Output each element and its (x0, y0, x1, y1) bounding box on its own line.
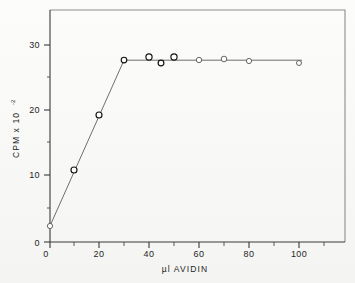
data-point-30 (121, 57, 127, 63)
data-point-80 (246, 58, 251, 63)
y-tick-label-20: 20 (29, 105, 40, 115)
data-point-0 (47, 223, 52, 228)
data-fit-line (50, 60, 302, 226)
x-tick-label-80: 80 (244, 249, 255, 259)
x-tick-label-20: 20 (94, 249, 105, 259)
y-tick-label-0: 0 (35, 238, 40, 248)
data-point-70 (221, 56, 227, 62)
data-point-100 (297, 61, 302, 66)
x-tick-label-40: 40 (144, 249, 155, 259)
data-point-20 (96, 112, 102, 118)
data-point-60 (196, 57, 201, 62)
data-point-10 (71, 167, 77, 173)
y-axis (44, 10, 50, 242)
x-tick-label-0: 0 (43, 249, 48, 259)
data-point-45 (158, 60, 164, 66)
y-axis-title-exponent: -2 (10, 99, 16, 105)
data-point-50 (171, 54, 177, 60)
x-axis-title: µl AVIDIN (162, 264, 208, 274)
data-point-markers (47, 54, 301, 229)
y-axis-title-group: CPM x 10 -2 (10, 99, 21, 158)
chart-plot: 30 20 10 0 0 20 40 60 80 100 µl AVIDIN C… (0, 0, 355, 283)
figure-canvas: 30 20 10 0 0 20 40 60 80 100 µl AVIDIN C… (0, 0, 355, 283)
y-tick-label-30: 30 (29, 40, 40, 50)
data-point-40 (146, 54, 152, 60)
y-axis-title: CPM x 10 (11, 112, 21, 158)
y-tick-label-10: 10 (29, 170, 40, 180)
x-axis (50, 242, 345, 248)
x-tick-label-100: 100 (291, 249, 307, 259)
x-tick-label-60: 60 (194, 249, 205, 259)
